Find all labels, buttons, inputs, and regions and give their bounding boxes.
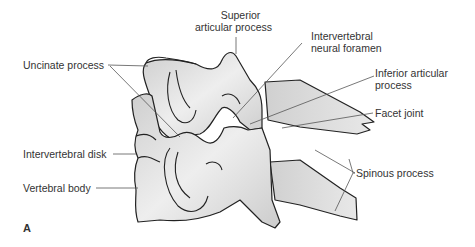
label-uncinate-process: Uncinate process <box>23 59 104 71</box>
label-intervertebral-disk: Intervertebral disk <box>23 148 106 160</box>
label-intervertebral-neural-foramen: Intervertebral neural foramen <box>311 30 382 54</box>
vertebrae-diagram: Superior articular process Intervertebra… <box>0 0 475 247</box>
label-line: Inferior articular <box>375 67 448 79</box>
label-line: process <box>375 79 448 91</box>
upper-spinous-process <box>265 80 374 134</box>
label-facet-joint: Facet joint <box>375 107 423 119</box>
label-superior-articular-process: Superior articular process <box>209 9 272 33</box>
label-line: Superior <box>209 9 272 21</box>
label-line: neural foramen <box>311 42 382 54</box>
vertebrae-illustration <box>0 0 475 247</box>
label-spinous-process: Spinous process <box>356 167 434 179</box>
lower-spinous-process <box>270 160 357 220</box>
upper-vertebra <box>143 53 262 138</box>
label-vertebral-body: Vertebral body <box>23 182 91 194</box>
label-line: articular process <box>195 21 272 33</box>
label-inferior-articular-process: Inferior articular process <box>375 67 448 91</box>
panel-letter: A <box>23 222 31 234</box>
label-line: Intervertebral <box>311 30 382 42</box>
